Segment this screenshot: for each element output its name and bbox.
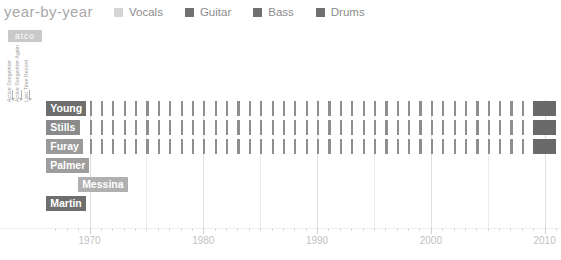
- year-bar[interactable]: [340, 139, 342, 154]
- year-bar[interactable]: [419, 101, 421, 116]
- year-bar[interactable]: [363, 101, 365, 116]
- year-bar[interactable]: [215, 101, 217, 116]
- year-bar[interactable]: [488, 120, 490, 135]
- year-bar[interactable]: [454, 101, 456, 116]
- year-bar[interactable]: [328, 101, 330, 116]
- year-bar[interactable]: [112, 120, 114, 135]
- year-bar[interactable]: [283, 101, 285, 116]
- year-bar[interactable]: [340, 101, 342, 116]
- span-bar[interactable]: [533, 101, 556, 116]
- year-bar[interactable]: [442, 120, 444, 135]
- year-bar[interactable]: [454, 139, 456, 154]
- year-bar[interactable]: [101, 120, 103, 135]
- year-bar[interactable]: [306, 101, 308, 116]
- year-bar[interactable]: [510, 120, 512, 135]
- year-bar[interactable]: [112, 101, 114, 116]
- year-bar[interactable]: [374, 101, 376, 116]
- year-bar[interactable]: [317, 139, 319, 154]
- year-bar[interactable]: [260, 139, 262, 154]
- year-bar[interactable]: [272, 101, 274, 116]
- year-bar[interactable]: [169, 120, 171, 135]
- year-bar[interactable]: [397, 101, 399, 116]
- year-bar[interactable]: [294, 120, 296, 135]
- year-bar[interactable]: [192, 101, 194, 116]
- year-bar[interactable]: [90, 139, 92, 154]
- year-bar[interactable]: [499, 101, 501, 116]
- year-bar[interactable]: [101, 139, 103, 154]
- year-bar[interactable]: [431, 120, 433, 135]
- year-bar[interactable]: [522, 139, 524, 154]
- year-bar[interactable]: [192, 139, 194, 154]
- year-bar[interactable]: [124, 139, 126, 154]
- year-bar[interactable]: [488, 101, 490, 116]
- year-bar[interactable]: [283, 120, 285, 135]
- year-bar[interactable]: [135, 139, 137, 154]
- chart-row[interactable]: Martin: [0, 195, 561, 212]
- year-bar[interactable]: [226, 120, 228, 135]
- year-bar[interactable]: [465, 101, 467, 116]
- year-bar[interactable]: [169, 139, 171, 154]
- year-bar[interactable]: [260, 120, 262, 135]
- year-bar[interactable]: [135, 120, 137, 135]
- year-bar[interactable]: [226, 139, 228, 154]
- year-bar[interactable]: [385, 101, 387, 116]
- chart-row[interactable]: Stills: [0, 119, 561, 136]
- year-bar[interactable]: [499, 120, 501, 135]
- year-bar[interactable]: [237, 139, 239, 154]
- row-label-martin[interactable]: Martin: [46, 196, 86, 211]
- year-bar[interactable]: [124, 101, 126, 116]
- year-bar[interactable]: [203, 120, 205, 135]
- chart-row[interactable]: Messina: [0, 176, 561, 193]
- year-bar[interactable]: [442, 101, 444, 116]
- year-bar[interactable]: [306, 139, 308, 154]
- year-bar[interactable]: [90, 101, 92, 116]
- span-bar[interactable]: [533, 120, 556, 135]
- year-bar[interactable]: [408, 139, 410, 154]
- year-bar[interactable]: [363, 139, 365, 154]
- year-bar[interactable]: [340, 120, 342, 135]
- year-bar[interactable]: [215, 120, 217, 135]
- year-bar[interactable]: [283, 139, 285, 154]
- year-bar[interactable]: [510, 101, 512, 116]
- year-bar[interactable]: [146, 101, 148, 116]
- year-bar[interactable]: [328, 139, 330, 154]
- year-bar[interactable]: [510, 139, 512, 154]
- year-bar[interactable]: [135, 101, 137, 116]
- year-bar[interactable]: [203, 139, 205, 154]
- year-bar[interactable]: [476, 101, 478, 116]
- year-bar[interactable]: [385, 139, 387, 154]
- year-bar[interactable]: [306, 120, 308, 135]
- year-bar[interactable]: [101, 101, 103, 116]
- year-bar[interactable]: [431, 139, 433, 154]
- year-bar[interactable]: [192, 120, 194, 135]
- year-bar[interactable]: [181, 120, 183, 135]
- year-bar[interactable]: [363, 120, 365, 135]
- year-bar[interactable]: [237, 101, 239, 116]
- year-bar[interactable]: [90, 120, 92, 135]
- year-bar[interactable]: [215, 139, 217, 154]
- year-bar[interactable]: [112, 139, 114, 154]
- year-bar[interactable]: [260, 101, 262, 116]
- year-bar[interactable]: [522, 120, 524, 135]
- year-bar[interactable]: [522, 101, 524, 116]
- year-bar[interactable]: [442, 139, 444, 154]
- year-bar[interactable]: [181, 101, 183, 116]
- year-bar[interactable]: [499, 139, 501, 154]
- year-bar[interactable]: [249, 139, 251, 154]
- year-bar[interactable]: [465, 120, 467, 135]
- year-bar[interactable]: [488, 139, 490, 154]
- year-bar[interactable]: [226, 101, 228, 116]
- year-bar[interactable]: [431, 101, 433, 116]
- year-bar[interactable]: [397, 139, 399, 154]
- row-label-young[interactable]: Young: [46, 101, 86, 116]
- year-bar[interactable]: [374, 139, 376, 154]
- row-label-stills[interactable]: Stills: [46, 120, 79, 135]
- year-bar[interactable]: [397, 120, 399, 135]
- year-bar[interactable]: [351, 101, 353, 116]
- year-bar[interactable]: [419, 139, 421, 154]
- year-bar[interactable]: [317, 120, 319, 135]
- year-bar[interactable]: [124, 120, 126, 135]
- year-bar[interactable]: [158, 139, 160, 154]
- year-bar[interactable]: [249, 120, 251, 135]
- year-bar[interactable]: [294, 139, 296, 154]
